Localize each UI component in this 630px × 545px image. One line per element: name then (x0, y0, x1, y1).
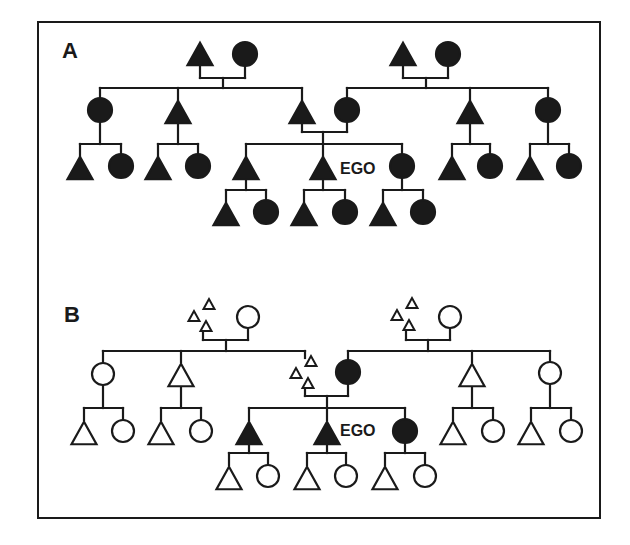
filled-circle-female-icon (88, 98, 112, 122)
filled-triangle-male-icon (371, 203, 396, 226)
filled-circle-female-icon (390, 154, 414, 178)
small-triangle-icon (201, 321, 212, 331)
outline-circle-female-icon (539, 362, 561, 384)
filled-triangle-male-icon (518, 157, 543, 180)
filled-circle-female-icon (478, 154, 502, 178)
outline-circle-female-icon (439, 306, 461, 328)
outline-circle-female-icon (560, 420, 582, 442)
kinship-diagram: A EGO B EGO (0, 0, 630, 545)
panel-b-label: B (64, 302, 80, 327)
filled-circle-female-icon (336, 360, 360, 384)
small-triangle-icon (407, 298, 418, 308)
outline-triangle-male-icon (217, 467, 242, 490)
panel-a-descent-chart: A EGO (62, 38, 581, 225)
filled-triangle-male-icon (68, 157, 93, 180)
filled-triangle-male-icon (146, 157, 171, 180)
outline-circle-female-icon (190, 420, 212, 442)
filled-triangle-male-icon (440, 157, 465, 180)
outline-triangle-male-icon (295, 467, 320, 490)
small-triangle-icon (291, 368, 302, 378)
outline-circle-female-icon (92, 363, 114, 385)
filled-triangle-male-icon (234, 157, 259, 180)
triangle-cluster-male-icon (392, 298, 418, 330)
panel-a-ego-label: EGO (340, 160, 376, 177)
panel-b-ego-label: EGO (340, 422, 376, 439)
outline-triangle-male-icon (519, 422, 544, 445)
filled-circle-female-icon (233, 42, 257, 66)
filled-circle-female-icon (557, 154, 581, 178)
filled-circle-female-icon (186, 154, 210, 178)
filled-triangle-male-icon (237, 422, 262, 445)
outline-triangle-male-icon (460, 364, 485, 387)
outline-triangle-male-icon (441, 422, 466, 445)
outline-circle-female-icon (237, 306, 259, 328)
filled-circle-female-icon (393, 419, 417, 443)
small-triangle-icon (189, 311, 200, 321)
filled-circle-female-icon (536, 98, 560, 122)
filled-circle-female-icon (436, 42, 460, 66)
filled-triangle-male-icon (311, 157, 336, 180)
filled-circle-female-icon (254, 200, 278, 224)
small-triangle-icon (404, 320, 415, 330)
small-triangle-icon (306, 356, 317, 366)
small-triangle-icon (204, 299, 215, 309)
panel-a-label: A (62, 38, 78, 63)
small-triangle-icon (392, 310, 403, 320)
triangle-cluster-male-icon (189, 299, 215, 331)
filled-triangle-male-icon (290, 101, 315, 124)
filled-triangle-male-icon (188, 43, 213, 66)
filled-circle-female-icon (109, 154, 133, 178)
outline-circle-female-icon (335, 465, 357, 487)
filled-triangle-male-icon (214, 203, 239, 226)
filled-circle-female-icon (411, 200, 435, 224)
small-triangle-icon (303, 378, 314, 388)
panel-b-kin-symbols (72, 298, 583, 489)
outline-triangle-male-icon (373, 467, 398, 490)
panel-a-kin-symbols (68, 42, 582, 225)
filled-triangle-male-icon (458, 101, 483, 124)
outline-circle-female-icon (414, 465, 436, 487)
outline-circle-female-icon (112, 420, 134, 442)
filled-circle-female-icon (335, 98, 359, 122)
outline-triangle-male-icon (169, 364, 194, 387)
outline-circle-female-icon (257, 465, 279, 487)
outline-triangle-male-icon (149, 422, 174, 445)
filled-triangle-male-icon (166, 101, 191, 124)
filled-triangle-male-icon (292, 203, 317, 226)
panel-a-kinship-lines (80, 66, 569, 202)
outline-circle-female-icon (482, 420, 504, 442)
triangle-cluster-male-icon (291, 356, 317, 388)
filled-triangle-male-icon (315, 422, 340, 445)
filled-triangle-male-icon (391, 43, 416, 66)
outline-triangle-male-icon (72, 422, 97, 445)
filled-circle-female-icon (333, 200, 357, 224)
panel-b-descent-chart: B EGO (64, 298, 582, 489)
